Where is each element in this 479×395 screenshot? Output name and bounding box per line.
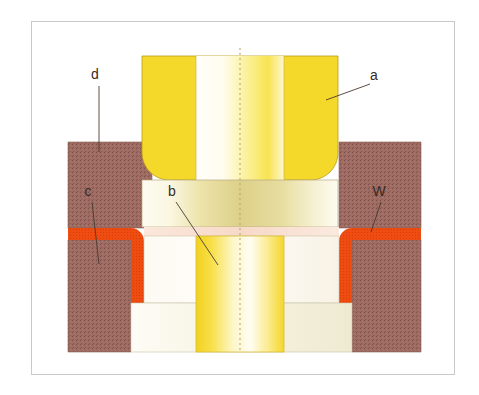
region-pink-seam	[144, 227, 339, 236]
region-lower-brown-right	[352, 240, 421, 352]
label-a: a	[370, 67, 378, 83]
label-b: b	[168, 183, 176, 199]
figure-root: d a c b W	[0, 0, 479, 395]
region-upper-brown-left	[68, 142, 152, 228]
region-lower-brown-left	[68, 240, 131, 352]
label-c: c	[85, 183, 92, 199]
label-W: W	[372, 183, 386, 199]
label-d: d	[91, 66, 99, 82]
cross-section-diagram: d a c b W	[0, 0, 479, 395]
